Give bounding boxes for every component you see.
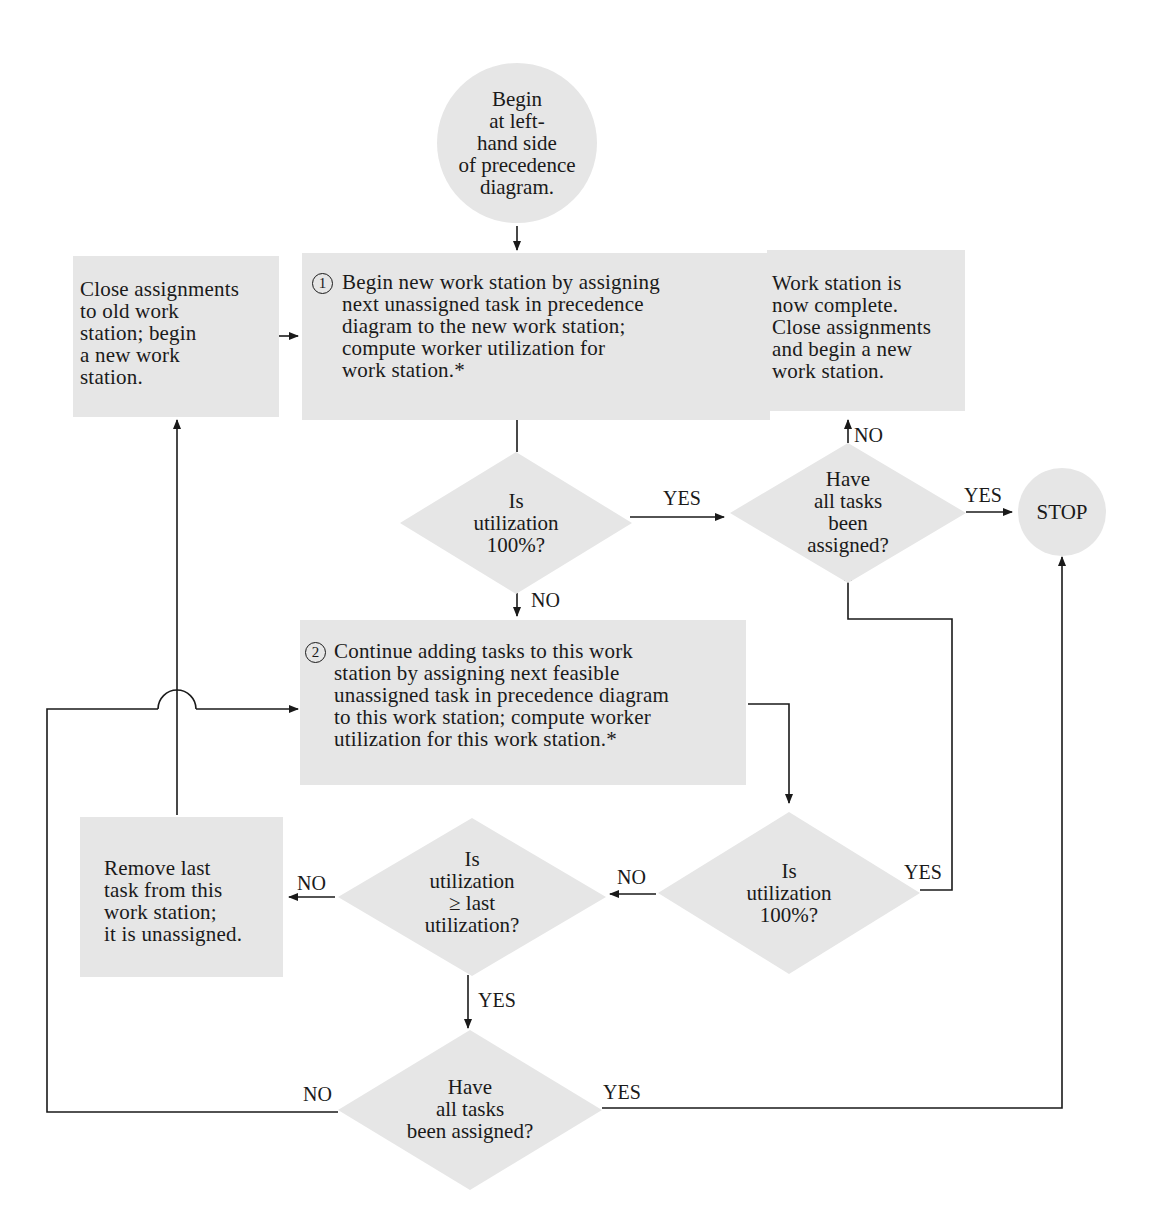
label-no-all-a: NO	[854, 425, 883, 445]
decision-utilization-100-b: Is utilization 100%?	[658, 812, 920, 974]
start-node-text: Begin at left- hand side of precedence d…	[458, 88, 575, 198]
step2-text: 2	[305, 640, 330, 663]
label-yes-util-b: YES	[904, 862, 942, 882]
station-complete-box: Work station is now complete. Close assi…	[767, 250, 965, 411]
label-no-util-b: NO	[617, 867, 646, 887]
remove-last-task-box: Remove last task from this work station;…	[80, 817, 283, 977]
step1-number-badge: 1	[312, 273, 333, 294]
label-yes-ge-last: YES	[478, 990, 516, 1010]
label-no-ge-last: NO	[297, 873, 326, 893]
decision-utilization-100-b-text: Is utilization 100%?	[658, 860, 920, 926]
label-yes-all-b: YES	[603, 1082, 641, 1102]
decision-all-assigned-a-text: Have all tasks been assigned?	[730, 468, 966, 556]
start-node: Begin at left- hand side of precedence d…	[437, 63, 597, 223]
label-no-all-b: NO	[303, 1084, 332, 1104]
step1-body: Begin new work station by assigning next…	[342, 271, 660, 381]
station-complete-text: Work station is now complete. Close assi…	[772, 272, 931, 382]
label-no-util-a: NO	[531, 590, 560, 610]
decision-utilization-100-a: Is utilization 100%?	[400, 452, 632, 594]
step1-box: 1 Begin new work station by assigning ne…	[302, 253, 770, 420]
close-old-station-text: Close assignments to old work station; b…	[80, 278, 239, 388]
step2-body: Continue adding tasks to this work stati…	[334, 640, 669, 750]
decision-all-assigned-b: Have all tasks been assigned?	[338, 1030, 602, 1190]
decision-all-assigned-b-text: Have all tasks been assigned?	[338, 1076, 602, 1142]
close-old-station-box: Close assignments to old work station; b…	[73, 256, 279, 417]
remove-last-task-text: Remove last task from this work station;…	[104, 857, 242, 945]
step2-box: 2 Continue adding tasks to this work sta…	[300, 620, 746, 785]
decision-utilization-ge-last-text: Is utilization ≥ last utilization?	[338, 848, 606, 936]
step1-text: 1	[312, 271, 337, 294]
decision-all-assigned-a: Have all tasks been assigned?	[730, 443, 966, 583]
label-yes-util-a: YES	[663, 488, 701, 508]
label-yes-all-a: YES	[964, 485, 1002, 505]
decision-utilization-100-a-text: Is utilization 100%?	[400, 490, 632, 556]
stop-node-text: STOP	[1037, 501, 1088, 523]
step2-number-badge: 2	[305, 642, 326, 663]
stop-node: STOP	[1018, 468, 1106, 556]
decision-utilization-ge-last: Is utilization ≥ last utilization?	[338, 818, 606, 976]
